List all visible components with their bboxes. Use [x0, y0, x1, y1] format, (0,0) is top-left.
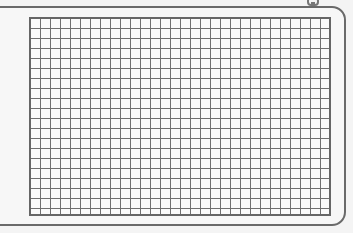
grid-sheet: [29, 17, 331, 216]
clip-icon: [307, 0, 319, 6]
